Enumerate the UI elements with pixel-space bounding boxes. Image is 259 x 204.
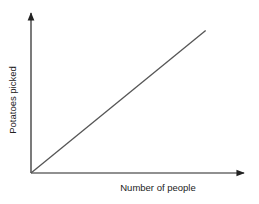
data-line: [31, 31, 206, 173]
y-axis-label: Potatoes picked: [7, 66, 18, 134]
line-chart: Number of people Potatoes picked: [0, 0, 259, 204]
x-axis-label: Number of people: [120, 182, 196, 193]
